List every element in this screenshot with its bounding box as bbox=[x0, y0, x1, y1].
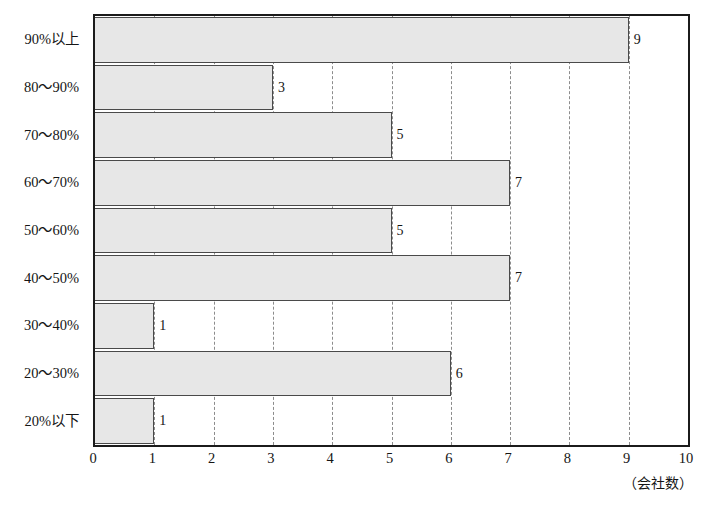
bar-value-label: 6 bbox=[451, 366, 463, 382]
y-axis-category-labels: 90%以上80〜90%70〜80%60〜70%50〜60%40〜50%30〜40… bbox=[0, 14, 88, 443]
bar-value-label: 7 bbox=[510, 270, 522, 286]
plot-area: 935757161 bbox=[93, 14, 690, 447]
bar[interactable] bbox=[95, 303, 154, 349]
unit-caption: （会社数） bbox=[623, 472, 693, 492]
bar-row: 6 bbox=[95, 350, 688, 398]
y-axis-label: 50〜60% bbox=[0, 205, 88, 253]
y-axis-label: 90%以上 bbox=[0, 14, 88, 62]
x-axis-tick-label: 10 bbox=[679, 450, 694, 467]
x-axis-tick-label: 9 bbox=[623, 450, 630, 467]
bar[interactable] bbox=[95, 398, 154, 444]
bar-row: 7 bbox=[95, 159, 688, 207]
bar-row: 5 bbox=[95, 207, 688, 255]
bar[interactable] bbox=[95, 255, 510, 301]
plot-inner: 935757161 bbox=[95, 16, 688, 445]
x-axis-tick-labels: 012345678910 bbox=[93, 450, 686, 472]
x-axis-tick-label: 4 bbox=[327, 450, 334, 467]
y-axis-label: 20〜30% bbox=[0, 348, 88, 396]
bar[interactable] bbox=[95, 160, 510, 206]
bar-row: 9 bbox=[95, 16, 688, 64]
bar-row: 1 bbox=[95, 397, 688, 445]
y-axis-label: 40〜50% bbox=[0, 252, 88, 300]
x-axis-tick-label: 6 bbox=[445, 450, 452, 467]
y-axis-label: 60〜70% bbox=[0, 157, 88, 205]
bar-value-label: 1 bbox=[154, 413, 166, 429]
y-axis-label: 70〜80% bbox=[0, 109, 88, 157]
bar[interactable] bbox=[95, 208, 392, 254]
bar[interactable] bbox=[95, 351, 451, 397]
bar-row: 7 bbox=[95, 254, 688, 302]
y-axis-label: 80〜90% bbox=[0, 62, 88, 110]
bar-row: 3 bbox=[95, 64, 688, 112]
x-axis-tick-label: 5 bbox=[386, 450, 393, 467]
x-axis-tick-label: 7 bbox=[504, 450, 511, 467]
bar-value-label: 1 bbox=[154, 318, 166, 334]
bar-value-label: 7 bbox=[510, 175, 522, 191]
x-axis-tick-label: 2 bbox=[208, 450, 215, 467]
bar[interactable] bbox=[95, 112, 392, 158]
bar-value-label: 5 bbox=[392, 223, 404, 239]
bar[interactable] bbox=[95, 17, 629, 63]
bar-row: 5 bbox=[95, 111, 688, 159]
bar-value-label: 9 bbox=[629, 32, 641, 48]
x-axis-tick-label: 8 bbox=[564, 450, 571, 467]
bar-value-label: 5 bbox=[392, 127, 404, 143]
y-axis-label: 30〜40% bbox=[0, 300, 88, 348]
bar-rows: 935757161 bbox=[95, 16, 688, 445]
x-axis-tick-label: 0 bbox=[89, 450, 96, 467]
bar-chart: 90%以上80〜90%70〜80%60〜70%50〜60%40〜50%30〜40… bbox=[0, 0, 711, 508]
x-axis-tick-label: 1 bbox=[149, 450, 156, 467]
bar-value-label: 3 bbox=[273, 80, 285, 96]
bar-row: 1 bbox=[95, 302, 688, 350]
x-axis-tick-label: 3 bbox=[267, 450, 274, 467]
y-axis-label: 20%以下 bbox=[0, 395, 88, 443]
bar[interactable] bbox=[95, 65, 273, 111]
